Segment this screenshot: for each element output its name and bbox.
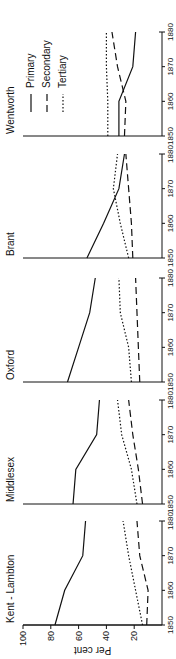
x-tick-label: 1880 (166, 269, 175, 287)
y-tick-label: 60 (74, 631, 84, 641)
panel-title: Middlesex (5, 457, 16, 502)
x-tick-label: 1860 (166, 581, 175, 599)
x-tick-label: 1850 (166, 127, 175, 145)
y-tick-label: 100 (18, 631, 28, 646)
legend-label: Tertiary (57, 55, 68, 88)
y-axis-label: Per cent (74, 645, 111, 656)
series-primary (119, 32, 136, 136)
x-tick-label: 1850 (166, 249, 175, 267)
panel-title: Wentworth (5, 86, 16, 134)
x-tick-label: 1850 (166, 373, 175, 391)
series-tertiary (113, 154, 128, 258)
y-tick-label: 20 (129, 631, 139, 641)
series-secondary (136, 278, 140, 382)
panel-title: Kent - Lambton (5, 555, 16, 623)
x-tick-label: 1870 (166, 57, 175, 75)
x-tick-label: 1870 (166, 303, 175, 321)
x-tick-label: 1850 (166, 616, 175, 634)
legend-label: Primary (25, 54, 36, 88)
series-tertiary (118, 400, 137, 504)
x-tick-label: 1860 (166, 460, 175, 478)
series-secondary (137, 521, 148, 625)
series-secondary (126, 154, 133, 258)
x-tick-label: 1860 (166, 92, 175, 110)
panel-title: Brant (5, 232, 16, 256)
x-tick-label: 1860 (166, 214, 175, 232)
x-tick-label: 1870 (166, 425, 175, 443)
y-tick-label: 40 (101, 631, 111, 641)
legend-label: Secondary (41, 40, 52, 88)
x-tick-label: 1870 (166, 179, 175, 197)
chart-figure: 20406080100Per cent1850186018701880Kent … (0, 0, 176, 659)
chart-svg: 20406080100Per cent1850186018701880Kent … (0, 0, 176, 659)
x-tick-label: 1860 (166, 338, 175, 356)
x-tick-label: 1870 (166, 546, 175, 564)
series-primary (87, 154, 125, 258)
series-primary (55, 521, 86, 625)
series-primary (67, 278, 95, 382)
series-tertiary (119, 278, 132, 382)
x-tick-label: 1850 (166, 495, 175, 513)
x-tick-label: 1880 (166, 512, 175, 530)
panel-title: Oxford (5, 350, 16, 380)
y-tick-label: 80 (46, 631, 56, 641)
x-tick-label: 1880 (166, 391, 175, 409)
x-tick-label: 1880 (166, 23, 175, 41)
series-tertiary (123, 521, 142, 625)
x-tick-label: 1880 (166, 145, 175, 163)
series-primary (73, 400, 99, 504)
series-secondary (129, 400, 143, 504)
series-tertiary (106, 32, 107, 136)
